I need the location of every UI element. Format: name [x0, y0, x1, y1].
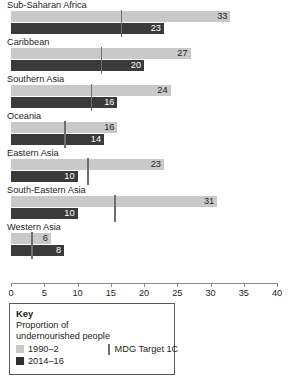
mdg-target-marker	[87, 158, 89, 185]
legend-item-mdg-target: MDG Target 1C	[108, 343, 178, 355]
x-axis: 0510152025303540	[0, 283, 292, 305]
bar-value-label: 23	[142, 23, 161, 34]
category-label: Southern Asia	[0, 74, 292, 85]
bar-row: 23	[11, 159, 292, 170]
bar-pair: 3323	[0, 11, 292, 36]
bar-group: Southern Asia2416	[0, 74, 292, 110]
bar-row: 16	[11, 97, 292, 108]
legend-label-1990-2: 1990–2	[28, 344, 59, 355]
chart-plot-area: Sub-Saharan Africa3323Caribbean2720South…	[0, 0, 292, 259]
bar-row: 31	[11, 196, 292, 207]
axis-tick	[177, 283, 178, 287]
bar-group: Eastern Asia2310	[0, 148, 292, 184]
bar-value-label: 14	[82, 134, 101, 145]
axis-tick-label: 35	[239, 288, 249, 299]
bar-value-label: 20	[122, 60, 141, 71]
axis-tick-label: 20	[139, 288, 149, 299]
axis-tick	[44, 283, 45, 287]
bar-row: 8	[11, 245, 292, 256]
bar-value-label: 27	[169, 48, 188, 59]
legend-title: Key	[16, 308, 169, 320]
bar-group: Western Asia68	[0, 222, 292, 258]
bar-value-label: 8	[42, 245, 61, 256]
legend-label-2014-16: 2014–16	[28, 356, 64, 367]
bar-value-label: 31	[195, 196, 214, 207]
bar-row: 20	[11, 60, 292, 71]
axis-tick	[211, 283, 212, 287]
bar-row: 6	[11, 233, 292, 244]
legend-swatch-dark-icon	[16, 357, 24, 365]
bar-group: Sub-Saharan Africa3323	[0, 0, 292, 36]
bar-value-label: 10	[56, 171, 75, 182]
category-label: Eastern Asia	[0, 148, 292, 159]
bar-value-label: 33	[208, 11, 227, 22]
bar-pair: 68	[0, 233, 292, 258]
axis-tick	[244, 283, 245, 287]
legend-item-2014-16: 2014–16	[16, 355, 169, 367]
axis-tick-label: 25	[172, 288, 182, 299]
axis-tick-label: 0	[8, 288, 13, 299]
bar-row: 10	[11, 208, 292, 219]
category-label: Sub-Saharan Africa	[0, 0, 292, 11]
mdg-target-marker	[31, 232, 33, 259]
legend-entries: 1990–2 2014–16 MDG Target 1C	[16, 343, 169, 367]
bar-value-label: 23	[142, 159, 161, 170]
mdg-target-marker	[64, 121, 66, 148]
axis-tick-label: 5	[42, 288, 47, 299]
category-label: Caribbean	[0, 37, 292, 48]
category-label: Western Asia	[0, 222, 292, 233]
bar-row: 16	[11, 122, 292, 133]
axis-tick-label: 30	[205, 288, 215, 299]
legend-subtitle-line2: undernourished people	[16, 331, 169, 342]
bar-group: South-Eastern Asia3110	[0, 185, 292, 221]
mdg-target-marker	[91, 84, 93, 111]
bar-pair: 2416	[0, 85, 292, 110]
legend-subtitle-line1: Proportion of	[16, 320, 169, 331]
bar-row: 23	[11, 23, 292, 34]
bar-value-label: 16	[95, 122, 114, 133]
axis-tick	[144, 283, 145, 287]
category-label: South-Eastern Asia	[0, 185, 292, 196]
bar-pair: 3110	[0, 196, 292, 221]
legend-swatch-light-icon	[16, 345, 24, 353]
bar-value-label: 10	[56, 208, 75, 219]
bar-value-label: 16	[95, 97, 114, 108]
legend-target-marker-icon	[108, 344, 110, 355]
bar-row: 14	[11, 134, 292, 145]
bar-group: Oceania1614	[0, 111, 292, 147]
bar-row: 10	[11, 171, 292, 182]
mdg-target-marker	[114, 195, 116, 222]
axis-tick-label: 15	[106, 288, 116, 299]
axis-tick-label: 40	[272, 288, 282, 299]
bar-row: 27	[11, 48, 292, 59]
mdg-target-marker	[101, 47, 103, 74]
axis-tick	[78, 283, 79, 287]
bar-pair: 2720	[0, 48, 292, 73]
undernourishment-bar-chart: Sub-Saharan Africa3323Caribbean2720South…	[0, 0, 292, 386]
bar-pair: 2310	[0, 159, 292, 184]
axis-tick	[111, 283, 112, 287]
legend-label-mdg-target: MDG Target 1C	[115, 344, 179, 355]
axis-tick	[277, 283, 278, 287]
axis-tick-label: 10	[72, 288, 82, 299]
bar-value-label: 24	[149, 85, 168, 96]
mdg-target-marker	[121, 10, 123, 37]
bar-group: Caribbean2720	[0, 37, 292, 73]
bar-row: 33	[11, 11, 292, 22]
axis-tick	[11, 283, 12, 287]
bar-pair: 1614	[0, 122, 292, 147]
chart-legend: Key Proportion of undernourished people …	[9, 303, 175, 375]
category-label: Oceania	[0, 111, 292, 122]
bar-row: 24	[11, 85, 292, 96]
